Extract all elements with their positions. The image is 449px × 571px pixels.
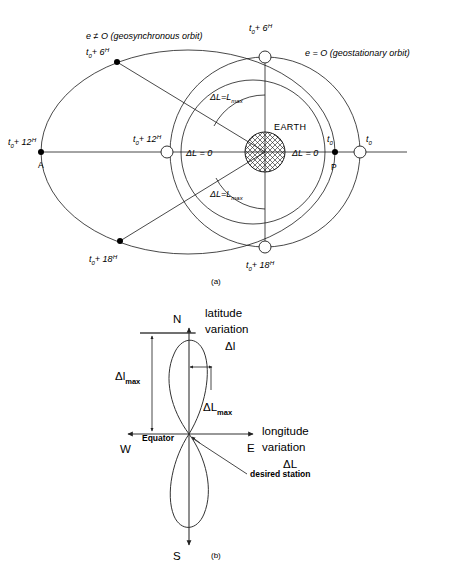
figure-b-caption: (b)	[211, 551, 221, 560]
delta-L-max-bottom: ΔL=Lmax	[209, 189, 244, 201]
label-apogee-A: A	[38, 160, 44, 170]
latitude-variation-line1: latitude	[205, 307, 242, 319]
label-perigee-P: P	[331, 162, 337, 172]
radius-to-t18-eccentric	[120, 152, 265, 241]
latitude-variation-line2: variation	[205, 323, 248, 335]
label-t6-eccentric: t0+ 6H	[86, 46, 110, 59]
label-equator: Equator	[142, 433, 175, 443]
earth-label: EARTH	[274, 122, 306, 132]
figure-a-orbit-diagram: EARTH e ≠ O (geosynchronous orbit) e = O…	[0, 0, 449, 290]
label-t0-eccentric: t0	[327, 134, 334, 146]
marker-t12-circular	[161, 146, 173, 158]
label-t18-circular: t0+ 18H	[246, 259, 275, 272]
delta-l-max-label: Δlmax	[115, 370, 141, 386]
label-south: S	[173, 550, 181, 562]
delta-L-max-top: ΔL=Lmax	[209, 92, 244, 104]
label-west: W	[120, 443, 131, 455]
marker-t0-circular	[354, 146, 366, 158]
marker-perigee-eccentric	[332, 149, 338, 155]
label-t0-circular: t0	[366, 134, 373, 146]
marker-t18-circular	[259, 241, 271, 253]
label-t18-eccentric: t0+ 18H	[89, 253, 118, 266]
geosynchronous-orbit-label: e ≠ O (geosynchronous orbit)	[86, 31, 203, 41]
longitude-variation-line1: longitude	[262, 425, 309, 437]
marker-t6-circular	[259, 51, 271, 63]
delta-L-zero-left: ΔL = 0	[185, 148, 212, 158]
label-t6-circular: t0+ 6H	[249, 22, 273, 35]
label-t12-eccentric: t0+ 12H	[8, 136, 37, 149]
latitude-variation-symbol: Δl	[225, 340, 235, 352]
label-east: E	[247, 442, 255, 454]
marker-t6-eccentric	[114, 59, 120, 65]
marker-t18-eccentric	[117, 238, 123, 244]
figure-eight-upper-lobe	[169, 340, 207, 434]
label-t12-circular: t0+ 12H	[133, 133, 162, 146]
desired-station-label: desired station	[250, 469, 310, 479]
figure-a-caption: (a)	[211, 277, 221, 286]
delta-L-max-label: ΔLmax	[203, 401, 233, 417]
geostationary-orbit-label: e = O (geostationary orbit)	[305, 48, 410, 58]
desired-station-leader-line	[192, 438, 247, 474]
label-north: N	[173, 313, 181, 325]
marker-apogee-eccentric	[38, 149, 44, 155]
delta-L-zero-right: ΔL = 0	[291, 148, 318, 158]
longitude-variation-line2: variation	[262, 441, 305, 453]
figure-b-figure-eight-diagram: N S W E Equator latitude variation Δl lo…	[0, 290, 449, 571]
